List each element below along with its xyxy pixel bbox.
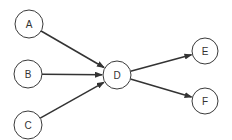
- node-a: A: [15, 10, 43, 38]
- node-e: E: [192, 38, 218, 64]
- node-c: C: [14, 111, 42, 139]
- directed-graph-diagram: ABCDEF: [0, 0, 232, 140]
- node-label: B: [25, 69, 32, 80]
- node-label: F: [202, 96, 208, 107]
- edge-a-to-d: [41, 31, 104, 67]
- node-b: B: [14, 60, 42, 88]
- node-label: E: [202, 46, 209, 57]
- node-f: F: [192, 88, 218, 114]
- node-d: D: [103, 61, 131, 89]
- edge-d-to-e: [131, 55, 192, 72]
- node-label: A: [26, 19, 33, 30]
- node-label: D: [113, 70, 120, 81]
- edge-d-to-f: [130, 79, 191, 97]
- node-label: C: [24, 120, 31, 131]
- edge-c-to-d: [40, 82, 104, 118]
- edge-b-to-d: [42, 74, 102, 75]
